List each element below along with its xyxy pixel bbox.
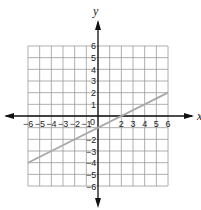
y-tick-label: −2 xyxy=(86,135,96,145)
y-axis-label: y xyxy=(92,4,99,18)
x-tick-label: −6 xyxy=(23,119,33,129)
x-axis-right-arrow-icon xyxy=(184,113,194,119)
x-tick-label: −2 xyxy=(70,119,80,129)
y-tick-label: 1 xyxy=(91,100,96,110)
y-tick-label: 3 xyxy=(91,76,96,86)
x-tick-label: 3 xyxy=(131,119,136,129)
y-tick-label: −6 xyxy=(86,182,96,192)
y-tick-label: 2 xyxy=(91,88,96,98)
y-tick-label: −5 xyxy=(86,170,96,180)
x-tick-label: −3 xyxy=(58,119,68,129)
y-tick-label: 4 xyxy=(91,65,96,75)
x-tick-label: −5 xyxy=(35,119,45,129)
x-tick-label: 2 xyxy=(119,119,124,129)
axes xyxy=(4,20,194,208)
y-axis-down-arrow-icon xyxy=(95,198,101,208)
x-tick-label: 5 xyxy=(154,119,159,129)
x-tick-label: −4 xyxy=(46,119,56,129)
y-tick-label: 5 xyxy=(91,53,96,63)
y-tick-label: −3 xyxy=(86,147,96,157)
x-tick-label: 6 xyxy=(166,119,171,129)
y-tick-label: −4 xyxy=(86,158,96,168)
y-axis-up-arrow-icon xyxy=(95,20,101,30)
y-tick-label: 6 xyxy=(91,41,96,51)
x-tick-label: 0 xyxy=(90,117,95,127)
x-tick-label: 4 xyxy=(142,119,147,129)
coordinate-plane: −6−5−4−3−2−1023456654321−2−3−4−5−6 y x xyxy=(0,0,201,210)
x-axis-label: x xyxy=(196,109,201,123)
x-axis-left-arrow-icon xyxy=(4,113,14,119)
